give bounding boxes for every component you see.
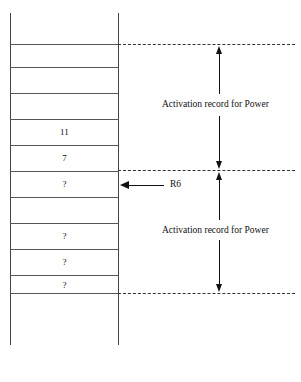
stack-row-separator — [10, 223, 119, 224]
stack-row-separator — [10, 275, 119, 276]
stack-row-separator — [10, 249, 119, 250]
stack-right-rail — [118, 13, 119, 345]
span-upper-caption: Activation record for Power — [162, 100, 269, 110]
span-upper-arrowhead-bottom — [216, 161, 222, 169]
pointer-r6-arrowhead-icon — [120, 181, 129, 189]
stack-cell-value-11: 11 — [10, 128, 119, 137]
guide-line-top — [118, 44, 295, 45]
stack-row-separator — [10, 293, 119, 294]
span-upper-shaft-bottom — [219, 116, 220, 162]
span-upper-shaft-top — [219, 52, 220, 94]
stack-cell-value-unknown-1: ? — [10, 180, 119, 189]
stack-row-separator — [10, 67, 119, 68]
stack-row-separator — [10, 171, 119, 172]
stack-row-separator — [10, 119, 119, 120]
stack-cell-value-unknown-4: ? — [10, 281, 119, 290]
stack-diagram-canvas: 11 7 ? ? ? ? Activation record for Power… — [0, 0, 301, 382]
guide-line-middle — [118, 170, 295, 171]
stack-cell-value-7: 7 — [10, 154, 119, 163]
pointer-r6-shaft — [129, 185, 164, 186]
stack-row-separator — [10, 145, 119, 146]
guide-line-bottom — [118, 293, 295, 294]
span-lower-caption: Activation record for Power — [162, 226, 269, 236]
stack-row-separator — [10, 93, 119, 94]
stack-left-rail — [10, 13, 11, 345]
span-lower-shaft-top — [219, 178, 220, 220]
stack-row-separator — [10, 44, 119, 45]
stack-row-separator — [10, 197, 119, 198]
span-lower-arrowhead-bottom — [216, 284, 222, 292]
span-lower-shaft-bottom — [219, 240, 220, 285]
stack-cell-value-unknown-2: ? — [10, 232, 119, 241]
stack-cell-value-unknown-3: ? — [10, 258, 119, 267]
pointer-r6-label: R6 — [170, 180, 181, 190]
